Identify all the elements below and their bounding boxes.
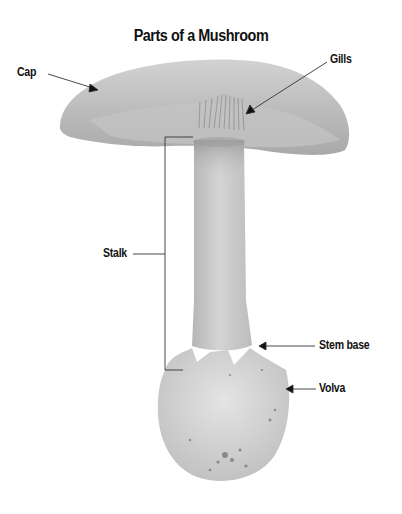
stem-base-arrow-head bbox=[259, 342, 266, 350]
label-stem-base: Stem base bbox=[319, 338, 369, 352]
stalk bbox=[192, 137, 252, 350]
volva bbox=[158, 348, 289, 481]
cap-arrow-line bbox=[48, 74, 93, 88]
mushroom-illustration bbox=[0, 0, 402, 514]
label-gills: Gills bbox=[330, 52, 352, 66]
label-volva: Volva bbox=[319, 381, 345, 395]
stalk-bracket bbox=[165, 137, 193, 370]
label-stalk: Stalk bbox=[103, 246, 127, 260]
label-cap: Cap bbox=[17, 65, 36, 79]
